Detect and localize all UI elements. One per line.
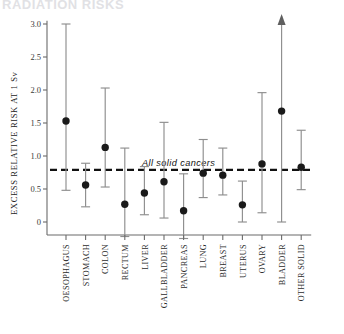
x-tick-label: STOMACH [82, 244, 91, 286]
data-point[interactable] [82, 181, 89, 188]
y-tick-label: 1.0 [30, 151, 41, 161]
y-tick-label: 0.5 [30, 184, 41, 194]
y-tick-label: 1.5 [30, 118, 41, 128]
x-tick-label: PANCREAS [180, 244, 189, 289]
data-point[interactable] [298, 164, 305, 171]
x-tick-label: LUNG [199, 244, 208, 268]
y-axis-title: EXCESS RELATIVE RISK AT 1 Sv [9, 71, 19, 215]
data-point[interactable] [200, 169, 207, 176]
data-point[interactable] [258, 160, 265, 167]
x-tick-label: OVARY [258, 244, 267, 273]
x-tick-label: OESOPHAGUS [62, 244, 71, 302]
x-tick-label: OTHER SOLID [297, 244, 306, 301]
data-point[interactable] [62, 117, 69, 124]
chart-canvas: 00.51.01.52.02.53.0EXCESS RELATIVE RISK … [0, 0, 344, 334]
data-point[interactable] [102, 144, 109, 151]
x-tick-label: BREAST [219, 244, 228, 278]
x-tick-label: RECTUM [121, 244, 130, 281]
x-tick-label: GALLBLADDER [160, 244, 169, 309]
upper-bound-arrow-icon [278, 14, 286, 25]
x-tick-label: LIVER [141, 244, 150, 270]
x-tick-label: UTERUS [239, 244, 248, 278]
data-point[interactable] [121, 200, 128, 207]
data-point[interactable] [239, 201, 246, 208]
data-point[interactable] [278, 107, 285, 114]
radiation-risk-figure: RADIATION RISKS 00.51.01.52.02.53.0EXCES… [0, 0, 344, 334]
data-point[interactable] [219, 171, 226, 178]
x-tick-label: COLON [101, 244, 110, 274]
y-tick-label: 3.0 [30, 19, 41, 29]
data-point[interactable] [180, 207, 187, 214]
y-tick-label: 2.5 [30, 52, 41, 62]
data-point[interactable] [160, 178, 167, 185]
data-point[interactable] [141, 189, 148, 196]
x-tick-label: BLADDER [278, 244, 287, 285]
y-tick-label: 2.0 [30, 85, 41, 95]
y-tick-label: 0 [37, 217, 41, 227]
reference-line-label: All solid cancers [141, 158, 215, 168]
